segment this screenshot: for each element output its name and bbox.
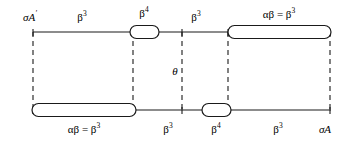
label-top-left-endpoint: σA′ xyxy=(23,12,37,23)
label-text: αβ = β xyxy=(68,123,97,135)
label-text: αβ = β xyxy=(263,8,292,20)
bottom-long-capsule xyxy=(32,104,136,117)
label-text: σA xyxy=(319,123,331,135)
top-long-capsule xyxy=(228,26,331,39)
polytype-stacking-diagram: σA′ β3 β4 β3 αβ = β3 θ αβ = β3 β3 β4 β3 … xyxy=(0,0,350,145)
label-text: θ xyxy=(172,65,177,77)
label-top-capsule-long: αβ = β3 xyxy=(263,9,295,20)
label-sup: 4 xyxy=(145,5,149,14)
label-bottom-segment-2: β3 xyxy=(273,124,282,135)
label-bottom-capsule-long: αβ = β3 xyxy=(68,124,100,135)
label-text: σA xyxy=(23,11,35,23)
label-sup: ′ xyxy=(35,9,37,18)
label-top-segment-2: β3 xyxy=(191,12,200,23)
label-top-segment-1: β3 xyxy=(77,12,86,23)
label-bottom-segment-1: β3 xyxy=(163,124,172,135)
label-sup: 3 xyxy=(96,121,100,130)
label-bottom-right-endpoint: σA xyxy=(319,124,331,135)
bottom-small-capsule xyxy=(202,104,231,117)
label-sup: 3 xyxy=(197,9,201,18)
top-small-capsule xyxy=(130,26,159,39)
label-sup: 3 xyxy=(83,9,87,18)
label-sup: 3 xyxy=(169,121,173,130)
label-sup: 3 xyxy=(291,6,295,15)
label-sup: 4 xyxy=(217,121,221,130)
label-top-capsule-small: β4 xyxy=(139,8,148,19)
label-center-angle-theta: θ xyxy=(172,66,177,77)
label-sup: 3 xyxy=(279,121,283,130)
label-bottom-capsule-small: β4 xyxy=(211,124,220,135)
